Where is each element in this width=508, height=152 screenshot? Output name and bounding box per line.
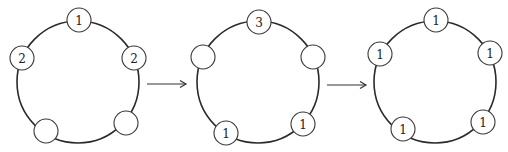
arrow-2-to-3-arrow-icon [327, 82, 366, 89]
node-circle [191, 45, 215, 69]
node-circle [34, 119, 58, 143]
node-label: 1 [486, 47, 494, 61]
node-top: 3 [247, 10, 271, 34]
node-label: 1 [479, 116, 487, 130]
node-label: 3 [255, 16, 263, 30]
node-left: 2 [10, 46, 34, 70]
diagram-canvas: 12231111111 [0, 0, 508, 152]
node-left: 1 [368, 42, 392, 66]
node-label: 1 [399, 123, 407, 137]
node-label: 2 [130, 52, 138, 66]
node-top: 1 [67, 8, 91, 32]
node-label: 1 [222, 127, 230, 141]
node-right: 1 [478, 41, 502, 65]
node-bottom-left: 1 [391, 117, 415, 141]
node-label: 2 [18, 52, 26, 66]
node-bottom-right: 1 [291, 112, 315, 136]
node-bottom-left: 1 [214, 121, 238, 145]
node-top: 1 [424, 8, 448, 32]
cycle-diagram-state-1: 122 [10, 8, 146, 143]
cycle-diagram-state-2: 311 [191, 10, 325, 145]
node-bottom-right [114, 111, 138, 135]
node-label: 1 [432, 14, 440, 28]
node-bottom-left [34, 119, 58, 143]
node-label: 1 [75, 14, 83, 28]
node-circle [301, 45, 325, 69]
node-right: 2 [122, 46, 146, 70]
node-left [191, 45, 215, 69]
node-right [301, 45, 325, 69]
node-circle [114, 111, 138, 135]
node-bottom-right: 1 [471, 110, 495, 134]
cycle-diagram-state-3: 11111 [368, 8, 502, 143]
arrow-1-to-2-arrow-icon [147, 81, 186, 88]
node-label: 1 [376, 48, 384, 62]
node-label: 1 [299, 118, 307, 132]
